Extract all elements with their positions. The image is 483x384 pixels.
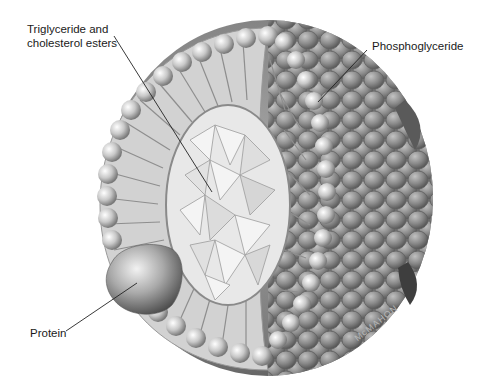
label-protein: Protein [30, 326, 66, 340]
label-core-line-1: Triglyceride and [27, 22, 117, 36]
label-phosphoglyceride: Phosphoglyceride [372, 39, 463, 53]
label-core-line-2: cholesterol esters [27, 36, 117, 50]
label-triglyceride-cholesterol-esters: Triglyceride and cholesterol esters [27, 22, 117, 50]
lipoprotein-illustration [0, 0, 483, 384]
protein-blob [106, 244, 182, 314]
